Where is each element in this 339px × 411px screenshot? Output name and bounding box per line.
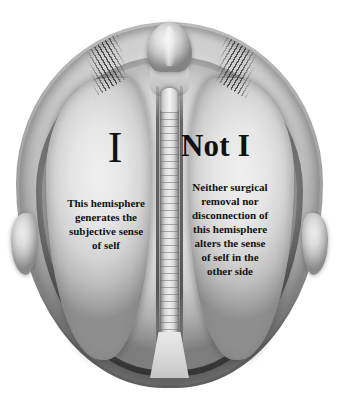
brain-hemisphere-figure: I Not I This hemisphere generates the su… [0,0,339,411]
caption-line: This hemisphere [52,196,160,210]
caption-line: removal nor [178,194,282,208]
caption-line: Neither surgical [178,180,282,194]
caption-line: subjective sense [52,224,160,238]
caption-line: disconnection of [178,208,282,222]
left-hemisphere-caption: This hemisphere generates the subjective… [52,196,160,252]
caption-line: generates the [52,210,160,224]
caption-line: this hemisphere [178,222,282,236]
right-hemisphere-heading: Not I [181,130,291,161]
corpus-callosum-column [160,88,179,336]
nose-ridge-highlight [163,26,176,66]
corpus-callosum-rungs [160,112,179,336]
caption-line: alters the sense [178,236,282,250]
caption-line: of self in the [178,250,282,264]
right-hemisphere-caption: Neither surgical removal nor disconnecti… [178,180,282,278]
left-hemisphere-heading: I [77,126,153,170]
corpus-callosum-cap [160,88,179,112]
caption-line: of self [52,238,160,252]
caption-line: other side [178,264,282,278]
temporal-protrusion-right-icon [302,213,328,275]
